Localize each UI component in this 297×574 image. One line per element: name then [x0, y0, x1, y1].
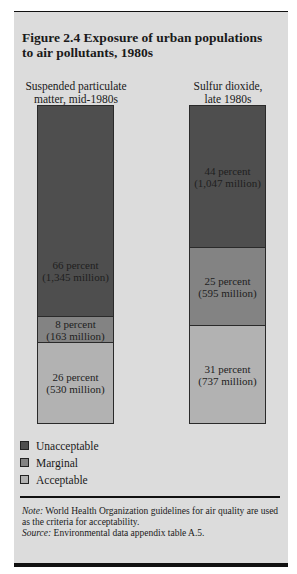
bar-particulate: 66 percent(1,345 million) 8 percent(163 … [37, 105, 114, 424]
title-line-1: Figure 2.4 Exposure of urban populations [22, 30, 282, 45]
figure-notes: Note: World Health Organization guidelin… [22, 506, 284, 539]
legend-item-unacceptable: Unacceptable [20, 437, 99, 454]
bar-label-sulfur: Sulfur dioxide, late 1980s [166, 80, 290, 106]
segment-acceptable: 31 percent(737 million) [190, 325, 265, 423]
bar-label-line: Suspended particulate [14, 80, 138, 93]
segment-marginal: 25 percent(595 million) [190, 247, 265, 325]
legend-label: Acceptable [36, 474, 88, 486]
legend-swatch-icon [20, 475, 29, 484]
bar-label-line: Sulfur dioxide, [166, 80, 290, 93]
segment-population: (1,047 million) [194, 177, 261, 189]
source-label: Source: [22, 528, 51, 538]
segment-percent: 66 percent [42, 259, 109, 271]
segment-population: (737 million) [198, 375, 256, 387]
legend: Unacceptable Marginal Acceptable [20, 437, 99, 488]
segment-population: (163 million) [46, 330, 104, 342]
segment-population: (1,345 million) [42, 271, 109, 283]
segment-population: (530 million) [46, 383, 104, 395]
segment-acceptable: 26 percent(530 million) [38, 342, 113, 423]
notes-divider [20, 496, 280, 498]
bar-sulfur: 44 percent(1,047 million) 25 percent(595… [189, 105, 266, 424]
bottom-rule [14, 563, 288, 567]
segment-percent: 44 percent [194, 165, 261, 177]
legend-label: Unacceptable [36, 440, 99, 452]
segment-population: (595 million) [198, 287, 256, 299]
legend-swatch-icon [20, 458, 29, 467]
legend-item-marginal: Marginal [20, 454, 99, 471]
note-text: World Health Organization guidelines for… [22, 506, 278, 527]
segment-percent: 25 percent [198, 275, 256, 287]
source-text: Environmental data appendix table A.5. [51, 528, 204, 538]
source-line: Source: Environmental data appendix tabl… [22, 528, 284, 539]
segment-unacceptable: 66 percent(1,345 million) [38, 106, 113, 316]
segment-unacceptable: 44 percent(1,047 million) [190, 106, 265, 247]
title-line-2: to air pollutants, 1980s [22, 45, 282, 60]
legend-swatch-icon [20, 441, 29, 450]
note-label: Note: [22, 506, 43, 516]
segment-percent: 8 percent [46, 318, 104, 330]
segment-percent: 31 percent [198, 363, 256, 375]
segment-marginal: 8 percent(163 million) [38, 316, 113, 342]
figure-title: Figure 2.4 Exposure of urban populations… [22, 30, 282, 60]
note-line: Note: World Health Organization guidelin… [22, 506, 284, 528]
legend-item-acceptable: Acceptable [20, 471, 99, 488]
segment-percent: 26 percent [46, 371, 104, 383]
bar-label-particulate: Suspended particulate matter, mid-1980s [14, 80, 138, 106]
legend-label: Marginal [36, 457, 78, 469]
